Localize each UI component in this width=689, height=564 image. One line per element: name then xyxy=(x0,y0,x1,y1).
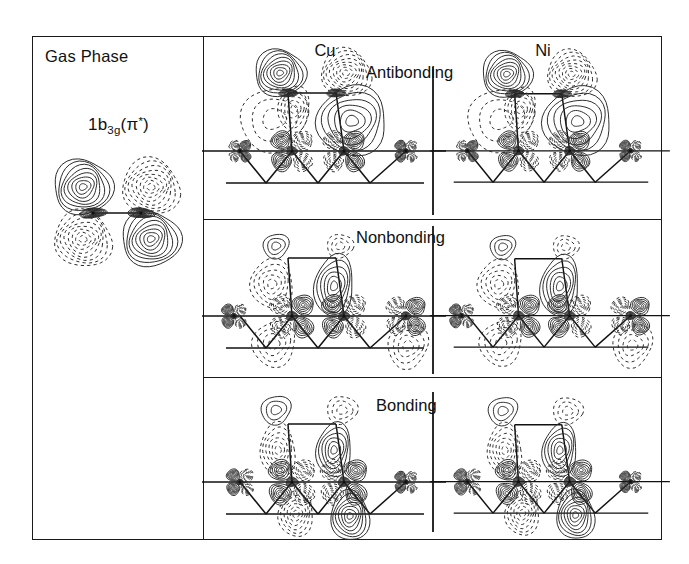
row-nonbonding: Nonbonding xyxy=(204,220,661,378)
orbital-label-subscript: 3g xyxy=(107,124,120,136)
panel-ni-nonbonding xyxy=(438,224,662,376)
panel-ni-bonding xyxy=(438,390,662,540)
row-label-bonding: Bonding xyxy=(376,396,437,415)
gas-phase-svg xyxy=(41,145,196,275)
row-bonding: Bonding xyxy=(204,378,661,539)
row-label-nonbonding: Nonbonding xyxy=(356,228,445,247)
figure-frame: Gas Phase 1b3g(π*) Cu Ni Antibonding Non… xyxy=(32,36,662,540)
gas-phase-column: Gas Phase 1b3g(π*) xyxy=(33,37,204,539)
orbital-label-pi: π xyxy=(126,115,138,134)
orbital-label-paren-close: ) xyxy=(143,115,149,134)
panel-ni-antibonding xyxy=(438,59,662,217)
orbital-label-main: 1b xyxy=(88,115,107,134)
row-antibonding: Antibonding xyxy=(204,37,661,220)
orbital-label: 1b3g(π*) xyxy=(33,115,204,136)
row-label-antibonding: Antibonding xyxy=(366,63,453,82)
gas-phase-contour-plot xyxy=(41,145,196,275)
gas-phase-title: Gas Phase xyxy=(45,47,128,66)
surface-grid: Cu Ni Antibonding Nonbonding xyxy=(204,37,661,539)
panel-cu-antibonding xyxy=(210,59,438,217)
